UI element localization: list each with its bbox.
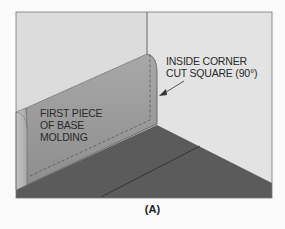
label-first-piece-base-molding: FIRST PIECE OF BASE MOLDING [40,107,102,143]
label-inside-corner: INSIDE CORNER CUT SQUARE (90°) [166,55,257,79]
figure-caption: (A) [0,203,285,215]
base-molding-diagram: FIRST PIECE OF BASE MOLDING INSIDE CORNE… [0,0,285,229]
